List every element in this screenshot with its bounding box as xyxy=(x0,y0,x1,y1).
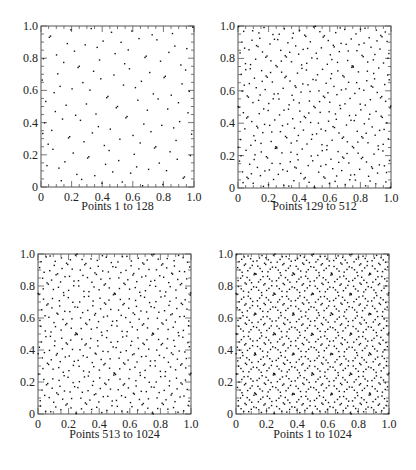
scatter-plot: 00.20.40.60.81.000.20.40.60.81.0 xyxy=(0,0,416,470)
y-tick-label: 0.2 xyxy=(218,375,233,389)
y-tick-label: 1.0 xyxy=(218,247,233,261)
y-tick-label: 0.8 xyxy=(218,279,233,293)
data-points xyxy=(235,253,389,414)
x-tick-label: 0.2 xyxy=(259,417,274,431)
y-tick-label: 0.4 xyxy=(218,343,233,357)
x-tick-label: 0 xyxy=(233,417,239,431)
x-tick-label: 0.8 xyxy=(351,417,366,431)
y-tick-label: 0.6 xyxy=(218,311,233,325)
panel-caption: Points 1 to 1024 xyxy=(273,427,351,442)
x-tick-label: 1.0 xyxy=(382,417,397,431)
y-tick-label: 0 xyxy=(227,407,233,421)
